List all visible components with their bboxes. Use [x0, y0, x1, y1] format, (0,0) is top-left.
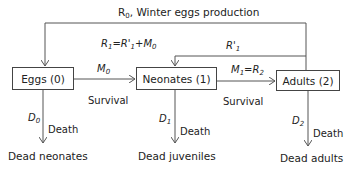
eggs-node-label: Eggs (0): [21, 73, 65, 85]
r1-formula-label: R1=R'1+M0: [101, 38, 156, 50]
neonates-node-label: Neonates (1): [142, 73, 210, 85]
adults-node: Adults (2): [276, 70, 340, 91]
survival-label-1: Survival: [88, 95, 128, 107]
death-label-adults: Death: [313, 128, 343, 140]
neonates-node: Neonates (1): [136, 67, 217, 90]
d1-label: D1: [159, 113, 171, 125]
death-label-neonates: Death: [180, 126, 210, 138]
survival-label-2: Survival: [223, 96, 263, 108]
dead-juveniles-label: Dead juveniles: [138, 150, 216, 162]
death-label-eggs: Death: [48, 124, 78, 136]
dead-neonates-label: Dead neonates: [8, 150, 88, 162]
d0-label: D0: [28, 112, 40, 124]
eggs-node: Eggs (0): [12, 67, 74, 90]
m0-label: M0: [97, 63, 110, 75]
r1prime-label: R'1: [226, 40, 240, 52]
adults-node-label: Adults (2): [282, 75, 333, 87]
m1-label: M1=R2: [231, 64, 264, 76]
d2-label: D2: [292, 115, 304, 127]
r0-label: R0, Winter eggs production: [118, 6, 259, 18]
dead-adults-label: Dead adults: [280, 152, 343, 164]
